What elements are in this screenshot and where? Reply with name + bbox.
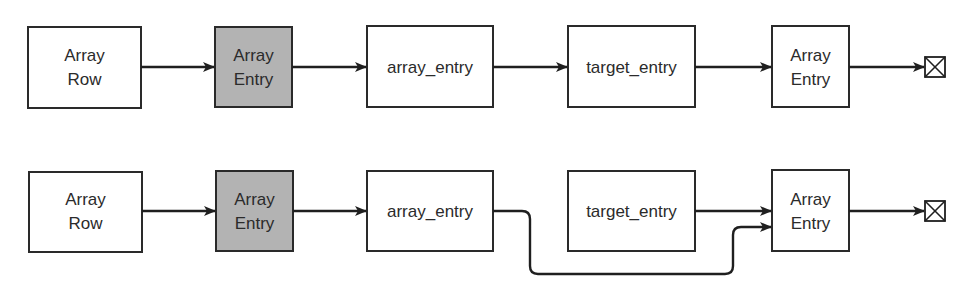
node-label-line-1: Array <box>790 46 831 65</box>
node-label-line-1: Array <box>65 190 106 209</box>
node-label-line-2: Entry <box>235 214 275 233</box>
node-array-entry-variable: array_entry <box>367 171 493 251</box>
boxed-x-terminator-icon <box>925 57 945 77</box>
node-label-line-2: Entry <box>791 214 831 233</box>
node-target-entry: target_entry <box>568 171 695 251</box>
node-label: array_entry <box>387 202 473 221</box>
node-box <box>772 170 849 251</box>
node-label-line-2: Row <box>68 214 103 233</box>
node-label-line-1: Array <box>790 190 831 209</box>
node-label: target_entry <box>586 202 677 221</box>
node-label-line-1: Array <box>64 46 105 65</box>
node-label-line-1: Array <box>234 190 275 209</box>
linked-list-diagram: Array Row Array Entry array_entry target… <box>0 0 971 285</box>
node-label-line-2: Row <box>67 70 102 89</box>
node-box <box>772 26 849 107</box>
node-label-line-2: Entry <box>234 70 274 89</box>
top-row: Array Row Array Entry array_entry target… <box>28 26 945 108</box>
node-array-entry-variable: array_entry <box>367 26 493 107</box>
node-target-entry: target_entry <box>568 26 695 107</box>
node-label: target_entry <box>586 58 677 77</box>
node-array-row: Array Row <box>29 172 142 252</box>
node-array-row: Array Row <box>28 27 141 108</box>
node-box <box>28 27 141 108</box>
node-box <box>29 172 142 252</box>
node-label-line-1: Array <box>233 46 274 65</box>
node-array-entry-shaded: Array Entry <box>216 171 293 251</box>
node-box-shaded <box>216 171 293 251</box>
bottom-row: Array Row Array Entry array_entry target… <box>29 170 945 274</box>
node-box-shaded <box>215 27 292 107</box>
node-label: array_entry <box>387 58 473 77</box>
node-label-line-2: Entry <box>791 70 831 89</box>
node-array-entry-shaded: Array Entry <box>215 27 292 107</box>
node-array-entry-final: Array Entry <box>772 170 849 251</box>
boxed-x-terminator-icon <box>925 201 945 221</box>
node-array-entry-final: Array Entry <box>772 26 849 107</box>
